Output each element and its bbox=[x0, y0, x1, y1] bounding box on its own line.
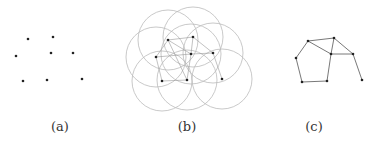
graph-node bbox=[52, 36, 55, 39]
graph-edge bbox=[191, 37, 193, 54]
panel-b bbox=[126, 7, 252, 111]
graph-edge bbox=[302, 81, 327, 82]
graph-node bbox=[22, 80, 25, 83]
graph-node bbox=[333, 37, 336, 40]
graph-node bbox=[326, 80, 329, 83]
graph-edge bbox=[296, 58, 302, 82]
graph-node bbox=[192, 36, 195, 39]
panel-c bbox=[295, 37, 364, 84]
graph-edge bbox=[296, 41, 308, 58]
panel-a-label: (a) bbox=[51, 119, 69, 134]
graph-edge bbox=[327, 54, 331, 81]
graph-edge bbox=[156, 40, 168, 57]
graph-edge bbox=[308, 38, 334, 41]
graph-node bbox=[161, 80, 164, 83]
graph-node bbox=[81, 78, 84, 81]
graph-node bbox=[221, 78, 224, 81]
graph-node bbox=[361, 79, 364, 82]
graph-node bbox=[155, 56, 158, 59]
graph-node bbox=[295, 57, 298, 60]
graph-node bbox=[307, 40, 310, 43]
graph-node bbox=[72, 52, 75, 55]
graph-edge bbox=[334, 38, 353, 54]
graph-node bbox=[15, 55, 18, 58]
graph-node bbox=[212, 52, 215, 55]
graph-node bbox=[301, 81, 304, 84]
panel-b-label: (b) bbox=[178, 119, 196, 134]
graph-edge bbox=[331, 38, 334, 54]
graph-node bbox=[167, 39, 170, 42]
graph-edge bbox=[353, 54, 362, 80]
graph-node bbox=[186, 79, 189, 82]
graph-node bbox=[352, 53, 355, 56]
graph-node bbox=[330, 53, 333, 56]
graph-node bbox=[27, 38, 30, 41]
panel-a bbox=[15, 36, 84, 83]
graph-node bbox=[190, 53, 193, 56]
graph-node bbox=[46, 79, 49, 82]
graph-node bbox=[50, 52, 53, 55]
graph-edge bbox=[308, 41, 331, 54]
panel-c-label: (c) bbox=[305, 119, 322, 134]
